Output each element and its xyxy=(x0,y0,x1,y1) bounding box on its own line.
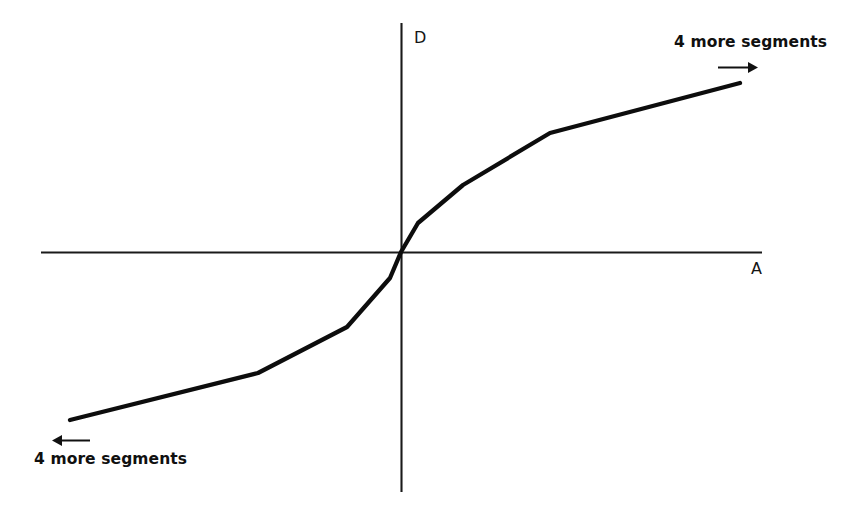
left-arrow-icon xyxy=(52,435,90,446)
annotation-top-right-text: 4 more segments xyxy=(674,35,827,51)
figure-container: D A 4 more segments 4 more segments xyxy=(0,0,841,517)
horizontal-axis-label: A xyxy=(751,261,762,277)
plot-canvas xyxy=(0,0,841,517)
annotation-bottom-left-text: 4 more segments xyxy=(34,452,187,468)
right-arrow-icon xyxy=(718,62,758,73)
vertical-axis-label: D xyxy=(414,30,426,46)
